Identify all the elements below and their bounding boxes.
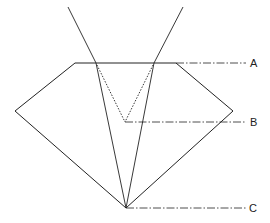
dotted-ray-left [97,65,125,122]
label-c: C [249,203,257,214]
incoming-ray-right [154,7,183,63]
dotted-ray-right [125,65,153,122]
incoming-ray-left [68,7,96,63]
label-b: B [250,117,257,128]
gem-diagram [0,0,270,223]
label-a: A [250,58,257,69]
gem-outline [15,63,233,208]
